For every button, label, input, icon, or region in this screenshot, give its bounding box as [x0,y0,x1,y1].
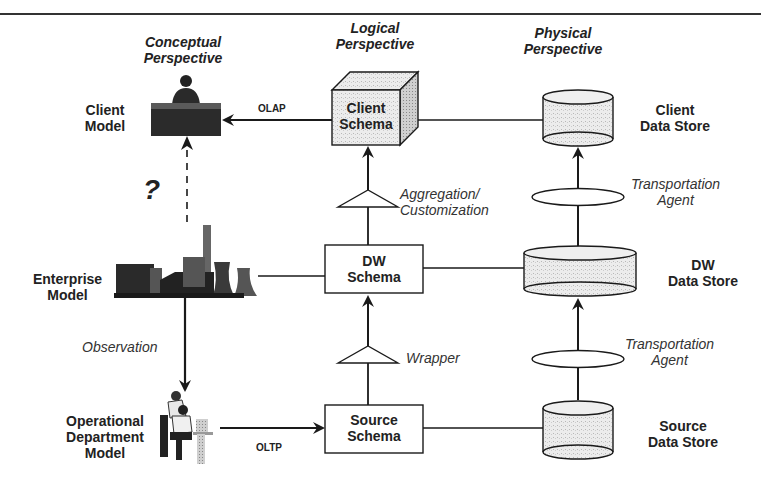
conceptual-perspective-header: Conceptual Perspective [128,34,238,66]
logical-perspective-header: Logical Perspective [320,20,430,52]
observation-label: Observation [82,339,157,355]
source-data-store-label: Source Data Store [628,418,738,450]
dw-data-store-cylinder[interactable] [524,246,636,296]
dw-schema-label: DW Schema [325,253,423,285]
physical-perspective-header: Physical Perspective [508,25,618,57]
olap-label: OLAP [258,103,286,115]
client-model-icon [151,75,221,136]
operational-department-model-label: Operational Department Model [50,413,160,461]
client-schema-label: Client Schema [332,100,400,132]
wrapper-label: Wrapper [406,350,460,366]
source-data-store-cylinder[interactable] [543,401,613,459]
dw-data-store-label: DW Data Store [648,257,758,289]
dashed-arrowhead-icon [181,136,193,150]
enterprise-model-label: Enterprise Model [20,271,115,303]
transportation-agent-bottom-label: Transportation Agent [612,336,727,368]
aggregation-triangle [338,190,398,207]
transportation-agent-bottom [532,351,624,368]
client-data-store-label: Client Data Store [620,102,730,134]
client-data-store-cylinder[interactable] [543,90,613,146]
wrapper-triangle [338,346,398,363]
enterprise-factory-icon [114,225,257,298]
transportation-agent-top-label: Transportation Agent [618,176,733,208]
oltp-label: OLTP [256,442,282,454]
operational-department-icon [160,391,213,464]
source-schema-label: Source Schema [325,412,423,444]
aggregation-customization-label: Aggregation/ Customization [400,186,489,218]
client-model-label: Client Model [65,102,145,134]
transportation-agent-top [532,189,624,206]
unknown-mapping-question-mark: ? [143,174,160,206]
